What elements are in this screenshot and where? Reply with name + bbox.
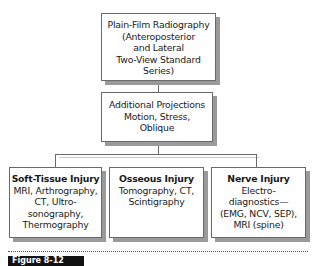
connector-branch-right — [256, 154, 257, 167]
box-title: Nerve Injury — [212, 173, 305, 185]
connector-branch-left — [55, 154, 56, 167]
branch-line — [55, 154, 257, 155]
box-line: CT, Ultro- — [10, 196, 101, 208]
box-title: Osseous Injury — [110, 173, 203, 185]
connector-middle-to-branch — [158, 141, 159, 154]
box-line: Electro- — [212, 185, 305, 197]
box-line: sonography, — [10, 208, 101, 220]
box-line: MRI (spine) — [212, 219, 305, 231]
plain-film-radiography-box: Plain-Film Radiography (Anteroposterior … — [101, 13, 216, 81]
box-line: (Anteroposterior — [102, 31, 215, 43]
box-line: Additional Projections — [102, 99, 212, 111]
box-line: Scintigraphy — [110, 196, 203, 208]
caption-divider — [8, 251, 308, 252]
box-line: Two-View Standard — [102, 54, 215, 66]
box-line: Plain-Film Radiography — [102, 19, 215, 31]
additional-projections-box: Additional Projections Motion, Stress, O… — [101, 92, 213, 142]
box-line: Oblique — [102, 122, 212, 134]
connector-top-to-middle — [158, 80, 159, 92]
box-line: diagnostics— — [212, 196, 305, 208]
box-line: Thermography — [10, 219, 101, 231]
box-title: Soft-Tissue Injury — [10, 173, 101, 185]
soft-tissue-injury-box: Soft-Tissue Injury MRI, Arthrography, CT… — [9, 167, 102, 238]
box-line: and Lateral — [102, 42, 215, 54]
figure-label: Figure 8-12 — [8, 256, 84, 266]
nerve-injury-box: Nerve Injury Electro- diagnostics— (EMG,… — [211, 167, 306, 238]
box-line: Motion, Stress, — [102, 111, 212, 123]
osseous-injury-box: Osseous Injury Tomography, CT, Scintigra… — [109, 167, 204, 238]
branch-line-shadow — [59, 157, 259, 158]
box-line: Series) — [102, 65, 215, 77]
box-line: MRI, Arthrography, — [10, 185, 101, 197]
box-line: Tomography, CT, — [110, 185, 203, 197]
box-line: (EMG, NCV, SEP), — [212, 208, 305, 220]
